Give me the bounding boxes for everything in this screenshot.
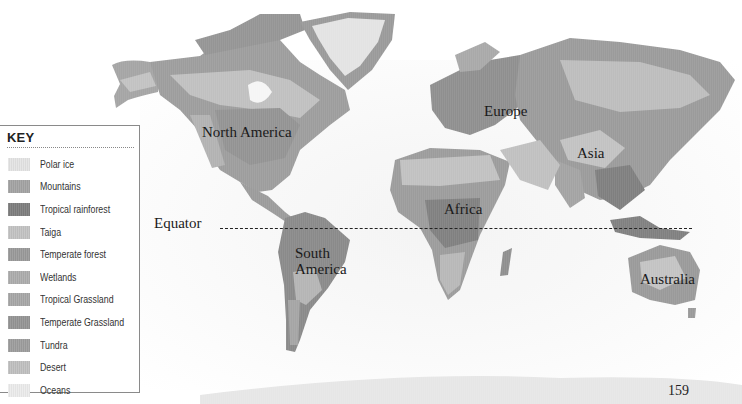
- swatch-temperate-grassland: [8, 316, 30, 329]
- continent-label-south-america: South America: [295, 245, 347, 277]
- page-number: 159: [668, 383, 689, 399]
- legend-label: Temperate Grassland: [40, 317, 124, 328]
- swatch-taiga: [8, 226, 30, 239]
- swatch-tropical-rainforest: [8, 203, 30, 216]
- legend-item-oceans: Oceans: [8, 379, 135, 402]
- continent-label-australia: Australia: [640, 271, 695, 288]
- legend-item-mountains: Mountains: [8, 176, 135, 199]
- swatch-desert: [8, 361, 30, 374]
- swatch-tropical-grassland: [8, 293, 30, 306]
- continent-label-asia: Asia: [577, 145, 605, 162]
- legend-title: KEY: [7, 130, 34, 145]
- swatch-mountains: [8, 180, 30, 193]
- continent-label-europe: Europe: [484, 103, 527, 120]
- swatch-wetlands: [8, 271, 30, 284]
- legend-divider: [7, 147, 134, 148]
- legend-label: Desert: [40, 362, 66, 373]
- legend-item-temperate-grassland: Temperate Grassland: [8, 311, 135, 334]
- continent-label-north-america: North America: [202, 124, 292, 141]
- legend-label: Wetlands: [40, 272, 77, 283]
- legend-label: Mountains: [40, 181, 81, 192]
- legend-label: Tundra: [40, 340, 68, 351]
- legend-label: Tropical Grassland: [40, 294, 114, 305]
- legend-item-tundra: Tundra: [8, 334, 135, 357]
- legend-item-taiga: Taiga: [8, 221, 135, 244]
- legend-label: Tropical rainforest: [40, 204, 110, 215]
- legend-label: Polar ice: [40, 159, 74, 170]
- continent-label-africa: Africa: [444, 201, 482, 218]
- equator-label: Equator: [154, 215, 201, 232]
- swatch-tundra: [8, 339, 30, 352]
- swatch-temperate-forest: [8, 248, 30, 261]
- swatch-polar-ice: [8, 158, 30, 171]
- equator-line: [220, 228, 692, 229]
- legend-item-polar-ice: Polar ice: [8, 153, 135, 176]
- legend-label: Taiga: [40, 227, 61, 238]
- legend-items: Polar ice Mountains Tropical rainforest …: [8, 153, 135, 402]
- map-legend: KEY Polar ice Mountains Tropical rainfor…: [0, 125, 140, 393]
- legend-label: Temperate forest: [40, 249, 106, 260]
- swatch-oceans: [8, 384, 30, 397]
- legend-item-temperate-forest: Temperate forest: [8, 243, 135, 266]
- legend-item-desert: Desert: [8, 356, 135, 379]
- legend-label: Oceans: [40, 385, 70, 396]
- legend-item-tropical-grassland: Tropical Grassland: [8, 289, 135, 312]
- legend-item-tropical-rainforest: Tropical rainforest: [8, 198, 135, 221]
- legend-item-wetlands: Wetlands: [8, 266, 135, 289]
